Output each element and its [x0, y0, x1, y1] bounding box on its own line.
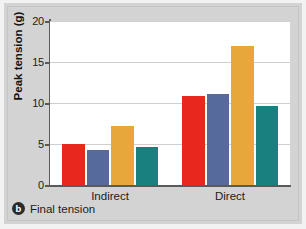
- plot-area: [50, 21, 290, 185]
- figure-panel: Peak tension (g) 05101520 IndirectDirect…: [0, 0, 306, 229]
- figure-caption: b Final tension: [12, 202, 95, 215]
- y-axis-tick-label: 5: [10, 138, 44, 150]
- y-axis-tick: [45, 103, 50, 105]
- y-axis-tick-labels: 05101520: [4, 0, 44, 229]
- bar: [87, 150, 110, 185]
- bar: [207, 94, 230, 185]
- bar: [136, 147, 159, 185]
- bar: [182, 96, 205, 185]
- caption-badge: b: [12, 202, 25, 215]
- y-axis-tick-label: 15: [10, 56, 44, 68]
- bar: [231, 46, 254, 185]
- y-axis-tick-label: 10: [10, 97, 44, 109]
- y-axis-tick: [45, 62, 50, 64]
- caption-text: Final tension: [30, 203, 95, 215]
- gridline: [50, 144, 290, 145]
- y-axis-tick-label: 20: [10, 15, 44, 27]
- bar: [62, 144, 85, 185]
- y-axis-tick: [45, 185, 50, 187]
- bar: [111, 126, 134, 185]
- x-axis-group-label: Direct: [170, 190, 290, 202]
- gridline: [50, 62, 290, 63]
- gridline: [50, 21, 290, 22]
- x-axis-line: [49, 185, 291, 187]
- y-axis-tick: [45, 144, 50, 146]
- y-axis-tick: [45, 21, 50, 23]
- y-axis-tick-label: 0: [10, 179, 44, 191]
- x-axis-group-label: Indirect: [50, 190, 170, 202]
- gridline: [50, 103, 290, 104]
- bar: [256, 106, 279, 185]
